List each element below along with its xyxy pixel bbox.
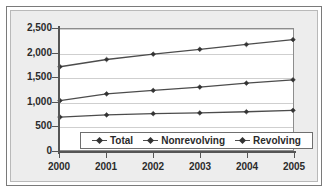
x-axis-tick-label: 2005 [271,161,317,172]
series-line-nonrevolving [60,80,293,101]
y-axis-line [58,26,60,154]
y-axis-tick-label: 1,500 [12,72,52,82]
data-point-marker [197,111,202,116]
legend-item-nonrevolving: Nonrevolving [143,135,225,146]
data-point-marker [291,77,296,82]
y-axis-tick-label: 0 [12,146,52,156]
data-point-marker [151,111,156,116]
y-axis-tick-label: 2,000 [12,48,52,58]
data-point-marker [197,47,202,52]
y-axis-tick [52,77,59,78]
data-point-marker [244,42,249,47]
data-point-marker [244,81,249,86]
x-axis-line [58,151,296,153]
x-axis-tick [247,153,248,158]
data-point-marker [104,57,109,62]
legend-item-revolving: Revolving [235,135,301,146]
y-axis-tick-label: 1,000 [12,97,52,107]
legend-label: Nonrevolving [161,135,225,146]
legend-item-total: Total [92,135,133,146]
y-axis-tick [52,53,59,54]
legend-marker-icon [235,136,250,145]
x-axis-tick-label: 2003 [177,161,223,172]
x-axis-tick-label: 2002 [130,161,176,172]
data-point-marker [104,91,109,96]
chart-figure-inner: 05001,0001,5002,0002,500 200020012002200… [10,10,318,182]
data-point-marker [244,109,249,114]
data-point-marker [291,37,296,42]
legend-label: Revolving [253,135,301,146]
series-line-revolving [60,110,293,117]
legend-marker-icon [92,136,107,145]
y-axis-tick [52,28,59,29]
chart-legend: TotalNonrevolvingRevolving [80,132,313,149]
data-point-marker [291,108,296,113]
x-axis-tick [153,153,154,158]
data-point-marker [151,88,156,93]
x-axis-tick-label: 2001 [83,161,129,172]
x-axis-tick [59,153,60,158]
series-line-total [60,40,293,67]
data-point-marker [197,85,202,90]
y-axis-tick [52,126,59,127]
data-point-marker [151,52,156,57]
x-axis-tick [294,153,295,158]
legend-label: Total [110,135,133,146]
x-axis-tick-label: 2000 [36,161,82,172]
legend-marker-icon [143,136,158,145]
x-axis-tick-label: 2004 [224,161,270,172]
x-axis-tick [106,153,107,158]
y-axis-tick-label: 2,500 [12,23,52,33]
chart-figure-frame: 05001,0001,5002,0002,500 200020012002200… [6,6,322,186]
data-point-marker [104,113,109,118]
x-axis-tick [200,153,201,158]
y-axis-tick-label: 500 [12,121,52,131]
y-axis-tick [52,102,59,103]
y-axis-tick [52,151,59,152]
y-axis-labels: 05001,0001,5002,0002,500 [11,11,52,181]
